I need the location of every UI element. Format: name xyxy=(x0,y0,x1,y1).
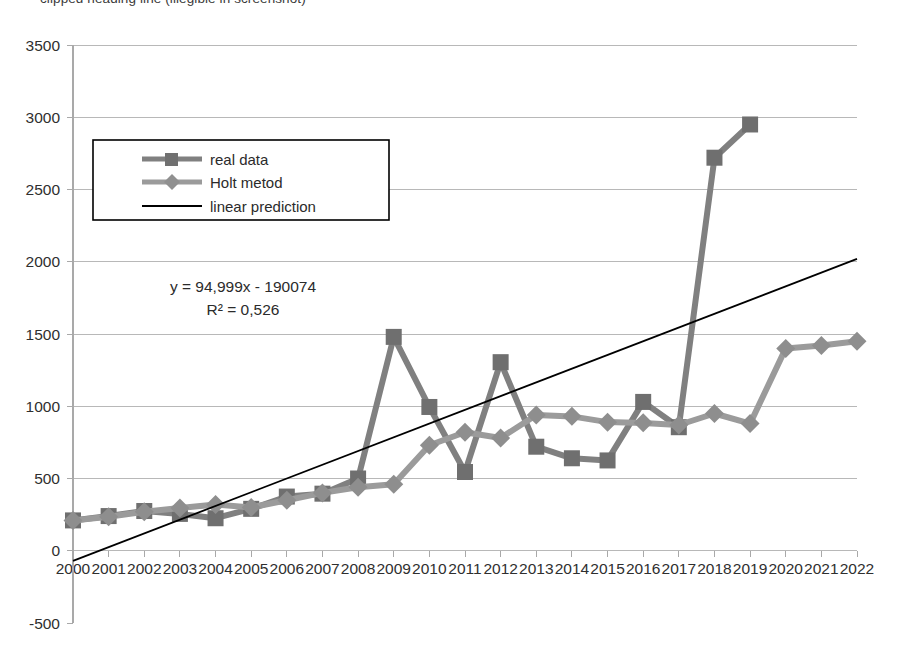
legend-label-holt-metod: Holt metod xyxy=(210,174,283,191)
chart-annotations: y = 94,999x - 190074 R² = 0,526 xyxy=(170,278,316,318)
x-tick-label-2022: 2022 xyxy=(840,560,874,577)
series-holt-metod xyxy=(64,332,867,530)
y-tick-label-3500: 3500 xyxy=(26,37,61,54)
x-tick-label-2020: 2020 xyxy=(768,560,803,577)
x-tick-label-2016: 2016 xyxy=(626,560,660,577)
y-axis-tick-labels: 3500300025002000150010005000-500 xyxy=(26,37,61,632)
data-point-marker-square xyxy=(528,439,544,455)
data-point-marker-diamond xyxy=(848,332,867,351)
data-point-marker-diamond xyxy=(776,339,795,358)
data-point-marker-square xyxy=(386,329,402,345)
x-tick-label-2001: 2001 xyxy=(91,560,125,577)
x-tick-label-2019: 2019 xyxy=(733,560,767,577)
x-tick-label-2012: 2012 xyxy=(483,560,517,577)
x-tick-label-2018: 2018 xyxy=(697,560,731,577)
x-tick-label-2007: 2007 xyxy=(305,560,339,577)
x-tick-label-2002: 2002 xyxy=(127,560,161,577)
x-tick-label-2006: 2006 xyxy=(270,560,304,577)
series-linear-prediction xyxy=(73,259,857,561)
chart-plot: 3500300025002000150010005000-500 2000200… xyxy=(0,0,899,657)
data-point-marker-square xyxy=(706,150,722,166)
regression-equation-label: y = 94,999x - 190074 xyxy=(170,278,316,295)
data-point-marker-square xyxy=(421,399,437,415)
square-marker-icon xyxy=(165,153,178,166)
x-tick-label-2009: 2009 xyxy=(376,560,410,577)
x-tick-label-2015: 2015 xyxy=(590,560,624,577)
data-point-marker-square xyxy=(635,394,651,410)
legend-label-linear-prediction: linear prediction xyxy=(210,198,316,215)
x-axis-tick-labels: 2000200120022003200420052006200720082009… xyxy=(56,560,874,577)
chart-legend: real data Holt metod linear prediction xyxy=(93,140,389,220)
x-tick-label-2021: 2021 xyxy=(804,560,838,577)
x-tick-label-2011: 2011 xyxy=(448,560,481,577)
data-point-marker-diamond xyxy=(456,423,475,442)
x-tick-label-2014: 2014 xyxy=(555,560,590,577)
y-tick-label-1000: 1000 xyxy=(26,398,61,415)
chart-container: clipped heading line (illegible in scree… xyxy=(0,0,899,657)
y-tick-label-500: 500 xyxy=(34,470,60,487)
x-tick-label-2004: 2004 xyxy=(198,560,233,577)
legend-label-real-data: real data xyxy=(210,151,269,168)
data-point-marker-square xyxy=(742,116,758,132)
x-tick-label-2005: 2005 xyxy=(234,560,268,577)
data-point-marker-diamond xyxy=(705,404,724,423)
data-point-marker-square xyxy=(600,452,616,468)
y-tick-label-2000: 2000 xyxy=(26,253,61,270)
data-point-marker-square xyxy=(457,464,473,480)
x-tick-label-2013: 2013 xyxy=(519,560,553,577)
r-squared-label: R² = 0,526 xyxy=(207,301,280,318)
data-point-marker-square xyxy=(564,450,580,466)
x-tick-label-2008: 2008 xyxy=(341,560,375,577)
data-point-marker-diamond xyxy=(812,336,831,355)
y-tick-label--500: -500 xyxy=(29,615,60,632)
x-tick-label-2017: 2017 xyxy=(662,560,696,577)
y-tick-label-3000: 3000 xyxy=(26,109,61,126)
data-point-marker-diamond xyxy=(741,414,760,433)
y-tick-label-2500: 2500 xyxy=(26,181,61,198)
y-tick-label-1500: 1500 xyxy=(26,326,61,343)
x-tick-label-2003: 2003 xyxy=(163,560,197,577)
y-tick-label-0: 0 xyxy=(51,542,60,559)
trendline-path xyxy=(73,259,857,561)
data-point-marker-diamond xyxy=(598,413,617,432)
x-tick-label-2010: 2010 xyxy=(412,560,447,577)
data-point-marker-diamond xyxy=(562,407,581,426)
data-point-marker-square xyxy=(493,354,509,370)
